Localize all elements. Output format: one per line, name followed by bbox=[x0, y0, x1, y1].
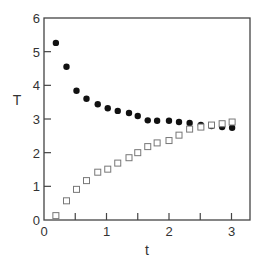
open-square-point bbox=[176, 132, 182, 138]
y-axis-ticks: 0123456 bbox=[33, 11, 51, 228]
open-square-point bbox=[84, 178, 90, 184]
filled-circle-point bbox=[126, 110, 132, 116]
filled-circle-point bbox=[176, 119, 182, 125]
filled-circle-point bbox=[53, 40, 59, 46]
open-square-point bbox=[229, 119, 235, 125]
filled-circle-point bbox=[115, 108, 121, 114]
data-points bbox=[53, 40, 236, 219]
y-tick-label: 4 bbox=[33, 78, 40, 93]
x-tick-label: 2 bbox=[165, 224, 172, 239]
filled-circle-point bbox=[83, 96, 89, 102]
open-square-point bbox=[105, 166, 111, 172]
filled-circle-point bbox=[135, 113, 141, 119]
open-square-point bbox=[126, 155, 132, 161]
x-tick-label: 0 bbox=[40, 224, 47, 239]
open-square-point bbox=[198, 124, 204, 130]
y-tick-label: 3 bbox=[33, 112, 40, 127]
open-square-point bbox=[135, 150, 141, 156]
open-square-point bbox=[95, 169, 101, 175]
filled-circle-point bbox=[105, 105, 111, 111]
open-square-point bbox=[166, 138, 172, 144]
filled-circle-point bbox=[166, 117, 172, 123]
y-axis-label: T bbox=[13, 92, 22, 108]
y-tick-label: 2 bbox=[33, 146, 40, 161]
open-square-point bbox=[154, 140, 160, 146]
y-tick-label: 1 bbox=[33, 179, 40, 194]
open-square-point bbox=[53, 213, 59, 219]
chart: 0123 0123456 t T bbox=[0, 0, 263, 263]
x-tick-label: 1 bbox=[103, 224, 110, 239]
y-tick-label: 0 bbox=[33, 213, 40, 228]
filled-circle-point bbox=[73, 88, 79, 94]
open-square-point bbox=[145, 144, 151, 150]
open-square-point bbox=[187, 126, 193, 132]
y-tick-label: 5 bbox=[33, 45, 40, 60]
open-square-point bbox=[209, 122, 215, 128]
x-axis-label: t bbox=[145, 242, 149, 258]
filled-circle-point bbox=[186, 120, 192, 126]
y-tick-label: 6 bbox=[33, 11, 40, 26]
open-square-point bbox=[74, 186, 80, 192]
filled-circle-point bbox=[95, 101, 101, 107]
filled-circle-point bbox=[154, 117, 160, 123]
open-square-point bbox=[115, 160, 121, 166]
open-square-point bbox=[64, 198, 70, 204]
filled-circle-point bbox=[63, 64, 69, 70]
filled-circle-point bbox=[145, 117, 151, 123]
open-square-point bbox=[219, 121, 225, 127]
x-axis-ticks: 0123 bbox=[40, 213, 235, 239]
x-tick-label: 3 bbox=[228, 224, 235, 239]
